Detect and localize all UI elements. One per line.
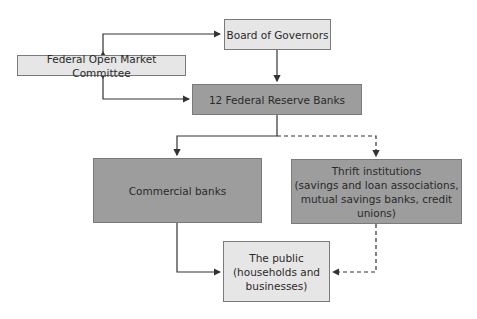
node-label-line2: (savings and loan associations, xyxy=(295,178,459,192)
node-fomc: Federal Open Market Committee xyxy=(17,55,186,76)
node-federal-reserve-banks: 12 Federal Reserve Banks xyxy=(192,84,362,115)
node-label: Board of Governors xyxy=(227,28,329,42)
node-the-public: The public (households and businesses) xyxy=(223,241,330,302)
node-label-line2: (households and xyxy=(233,265,320,279)
node-label-line1: Thrift institutions xyxy=(332,164,422,178)
node-label: Federal Open Market Committee xyxy=(18,52,185,80)
node-label-line3: businesses) xyxy=(246,279,308,293)
node-label-line1: The public xyxy=(249,251,303,265)
node-label-line3: mutual savings banks, credit unions) xyxy=(292,192,461,220)
node-commercial-banks: Commercial banks xyxy=(93,158,262,223)
node-label: Commercial banks xyxy=(129,184,226,198)
node-board-of-governors: Board of Governors xyxy=(224,19,331,50)
node-label: 12 Federal Reserve Banks xyxy=(209,93,345,107)
node-thrift-institutions: Thrift institutions (savings and loan as… xyxy=(291,159,462,224)
